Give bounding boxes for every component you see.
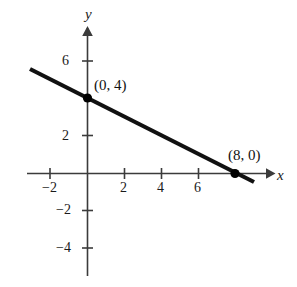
y-axis-label: y [85,7,92,22]
x-tick-label-6: 6 [194,181,201,195]
point-marker-x-intercept [230,169,239,178]
graph-canvas [0,0,297,287]
y-intercept-label: (0, 4) [94,78,127,93]
x-tick-label-neg2: −2 [42,181,57,195]
y-tick-label-2: 2 [62,129,69,143]
point-marker-y-intercept [83,93,92,102]
y-tick-label-6: 6 [62,54,69,68]
plotted-line [30,69,254,182]
y-tick-label-neg4: −4 [56,241,71,255]
coordinate-plane-figure: −2 2 4 6 6 2 −2 −4 (0, 4) (8, 0) x y [0,0,297,287]
x-tick-label-4: 4 [157,181,164,195]
x-tick-label-2: 2 [120,181,127,195]
x-axis-arrowhead [266,168,276,179]
y-tick-label-neg2: −2 [56,203,71,217]
y-axis-arrowhead [82,26,93,36]
x-intercept-label: (8, 0) [228,148,261,163]
x-axis-label: x [277,168,284,183]
y-axis [82,26,93,276]
